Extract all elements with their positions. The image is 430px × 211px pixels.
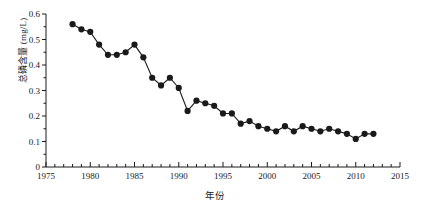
line-chart-svg: 00.10.20.30.40.50.6 19751980198519901995… — [0, 0, 430, 211]
data-point — [140, 54, 146, 60]
x-tick-label: 1980 — [81, 171, 100, 181]
data-point — [326, 126, 332, 132]
y-tick-label: 0.1 — [29, 137, 40, 147]
x-tick-label: 2010 — [347, 171, 366, 181]
data-point — [335, 128, 341, 134]
y-tick-label: 0.3 — [29, 86, 41, 96]
data-point — [96, 42, 102, 48]
data-point — [87, 29, 93, 35]
data-point — [176, 85, 182, 91]
data-point — [282, 123, 288, 129]
y-tick-label: 0.4 — [29, 60, 41, 70]
x-tick-label: 2000 — [258, 171, 277, 181]
data-point — [193, 98, 199, 104]
data-point — [300, 123, 306, 129]
data-point — [317, 128, 323, 134]
data-point — [123, 49, 129, 55]
x-tick-label: 1995 — [214, 171, 233, 181]
data-point — [131, 42, 137, 48]
y-tick-label: 0.5 — [29, 35, 41, 45]
data-point — [105, 52, 111, 58]
plot-area: 00.10.20.30.40.50.6 19751980198519901995… — [0, 0, 430, 211]
x-tick-label: 2015 — [391, 171, 410, 181]
data-point — [69, 21, 75, 27]
y-tick-label: 0.6 — [29, 9, 41, 19]
data-point — [308, 126, 314, 132]
series-line — [73, 24, 374, 139]
data-point — [158, 82, 164, 88]
data-point — [246, 118, 252, 124]
x-tick-label: 1990 — [170, 171, 189, 181]
data-point — [220, 110, 226, 116]
x-tick-label: 2005 — [303, 171, 322, 181]
y-tick-label: 0.2 — [29, 111, 40, 121]
data-point — [273, 128, 279, 134]
x-axis: 197519801985199019952000200520102015 — [37, 162, 410, 181]
data-point — [362, 131, 368, 137]
data-point — [114, 52, 120, 58]
data-point — [291, 128, 297, 134]
data-point — [238, 121, 244, 127]
data-point — [255, 123, 261, 129]
chart-container: 总磷含量 (mg/L) 年份 00.10.20.30.40.50.6 19751… — [0, 0, 430, 211]
data-point — [229, 110, 235, 116]
data-series — [69, 21, 376, 142]
data-point — [344, 131, 350, 137]
data-point — [353, 136, 359, 142]
y-axis: 00.10.20.30.40.50.6 — [29, 9, 46, 172]
x-tick-label: 1975 — [37, 171, 56, 181]
data-point — [264, 126, 270, 132]
data-point — [78, 26, 84, 32]
data-point — [202, 100, 208, 106]
data-point — [211, 103, 217, 109]
data-point — [167, 75, 173, 81]
data-point — [149, 75, 155, 81]
data-point — [185, 108, 191, 114]
data-point — [370, 131, 376, 137]
x-tick-label: 1985 — [126, 171, 145, 181]
